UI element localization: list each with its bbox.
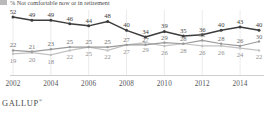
data-value-label: 34	[142, 28, 149, 35]
data-value-label: 26	[161, 49, 168, 56]
data-value-label: 52	[10, 8, 17, 15]
x-axis-tick-label: 2002	[5, 80, 20, 88]
data-value-label: 27	[123, 48, 130, 55]
registered-mark: ®	[39, 98, 43, 103]
data-value-label: 28	[180, 35, 187, 42]
data-value-label: 49	[48, 11, 55, 18]
data-point	[201, 45, 203, 47]
data-point	[258, 40, 260, 42]
data-value-label: 31	[199, 31, 206, 38]
data-value-label: 22	[104, 53, 111, 60]
data-value-label: 26	[237, 37, 244, 44]
data-value-label: 24	[237, 51, 244, 58]
data-point	[106, 20, 109, 23]
x-axis-line	[10, 75, 264, 76]
chart-figure: % Not comfortable now or in retirement 5…	[0, 0, 269, 114]
data-value-label: 26	[199, 49, 206, 56]
data-value-label: 25	[85, 38, 92, 45]
data-point	[258, 49, 260, 51]
data-point	[106, 49, 108, 51]
data-point	[50, 54, 52, 56]
legend-swatch-icon	[0, 0, 7, 5]
data-value-label: 40	[123, 21, 130, 28]
data-point	[12, 15, 15, 18]
data-value-label: 30	[256, 33, 263, 40]
data-point	[220, 29, 223, 32]
data-point	[31, 50, 33, 52]
line-chart-svg	[0, 6, 269, 76]
x-axis-tick-label: 2012	[195, 80, 210, 88]
data-point	[125, 29, 128, 32]
x-axis-tick-label: 2004	[43, 80, 58, 88]
data-value-label: 40	[218, 21, 225, 28]
data-value-label: 29	[142, 46, 149, 53]
data-value-label: 29	[161, 34, 168, 41]
data-point	[106, 46, 108, 48]
data-point	[239, 47, 241, 49]
data-value-label: 27	[123, 36, 130, 43]
data-point	[87, 24, 90, 27]
data-value-label: 44	[85, 17, 92, 24]
data-point	[258, 29, 261, 32]
data-point	[69, 49, 71, 51]
data-value-label: 25	[66, 38, 73, 45]
x-axis-tick-label: 2010	[157, 80, 172, 88]
x-axis-tick-label: 2006	[81, 80, 96, 88]
data-point	[49, 19, 52, 22]
x-axis-tick-label: 2014	[232, 80, 247, 88]
data-value-label: 25	[104, 38, 111, 45]
data-point	[87, 46, 89, 48]
data-value-label: 40	[256, 21, 263, 28]
data-value-label: 48	[104, 12, 111, 19]
data-point	[163, 45, 165, 47]
data-point	[220, 45, 222, 47]
data-point	[220, 43, 222, 45]
data-point	[201, 39, 203, 41]
data-value-label: 25	[85, 50, 92, 57]
data-point	[163, 41, 165, 43]
data-value-label: 49	[29, 11, 36, 18]
legend-label: % Not comfortable now or in retirement	[10, 0, 110, 6]
gallup-logo: GALLUP®	[2, 98, 43, 108]
data-value-label: 21	[29, 43, 36, 50]
data-value-label: 18	[48, 58, 55, 65]
data-value-label: 22	[66, 53, 73, 60]
data-point	[69, 46, 71, 48]
data-point	[50, 48, 52, 50]
data-value-label: 22	[256, 53, 263, 60]
data-value-label: 46	[66, 15, 73, 22]
x-axis-tick-labels: 2002200420062008201020122014	[0, 80, 269, 92]
plot-area	[0, 6, 269, 76]
data-point	[239, 25, 242, 28]
data-value-label: 27	[142, 36, 149, 43]
data-point	[182, 43, 184, 45]
data-value-label: 26	[218, 49, 225, 56]
data-value-label: 20	[29, 56, 36, 63]
data-value-label: 23	[48, 40, 55, 47]
data-value-label: 28	[180, 47, 187, 54]
data-value-label: 19	[10, 57, 17, 64]
data-point	[163, 30, 166, 33]
data-value-label: 35	[180, 27, 187, 34]
data-value-label: 43	[237, 18, 244, 25]
data-point	[12, 49, 14, 51]
data-value-label: 22	[10, 41, 17, 48]
x-axis-tick-label: 2008	[119, 80, 134, 88]
data-value-label: 28	[218, 35, 225, 42]
data-point	[239, 45, 241, 47]
data-point	[30, 19, 33, 22]
gallup-wordmark: GALLUP	[2, 99, 39, 108]
data-point	[125, 44, 127, 46]
data-point	[68, 22, 71, 25]
data-value-label: 39	[161, 22, 168, 29]
data-point	[12, 53, 14, 55]
